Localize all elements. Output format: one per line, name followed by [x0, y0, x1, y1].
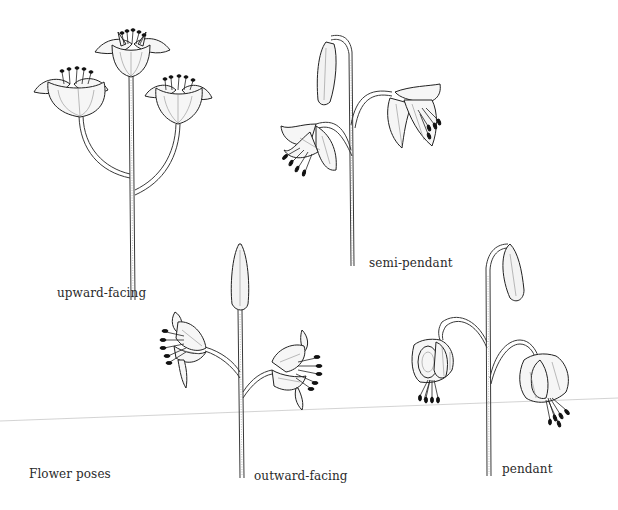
- flower-semi-right: [388, 84, 442, 148]
- main-stem: [238, 310, 240, 478]
- flower-upward-top: [95, 29, 170, 77]
- bud-pendant: [503, 244, 524, 301]
- flower-pendant-right: [520, 354, 570, 427]
- branch-left: [439, 317, 487, 342]
- label-upward-facing: upward-facing: [57, 286, 146, 300]
- flower-pendant-left: [412, 339, 453, 403]
- plant-upward-facing: [34, 29, 212, 300]
- branch-left: [79, 116, 130, 178]
- flower-outward-right: [272, 330, 322, 410]
- figure-caption: Flower poses: [29, 467, 111, 481]
- plant-semi-pendant: [281, 35, 441, 266]
- anthers: [546, 398, 570, 427]
- label-semi-pendant: semi-pendant: [369, 256, 453, 270]
- bud-semi-pendant: [317, 42, 336, 105]
- flower-upward-right: [145, 75, 212, 124]
- anthers: [419, 380, 440, 403]
- label-outward-facing: outward-facing: [254, 469, 348, 483]
- plant-outward-facing: [160, 244, 322, 478]
- label-pendant: pendant: [502, 462, 553, 476]
- flower-upward-left: [34, 67, 108, 117]
- plant-pendant: [412, 244, 570, 476]
- flower-semi-left: [281, 124, 336, 176]
- branch-right: [135, 124, 176, 190]
- flower-outward-left: [160, 312, 206, 388]
- main-stem: [129, 75, 131, 300]
- illustration-canvas: [0, 0, 618, 510]
- scan-rule-line: [0, 398, 618, 421]
